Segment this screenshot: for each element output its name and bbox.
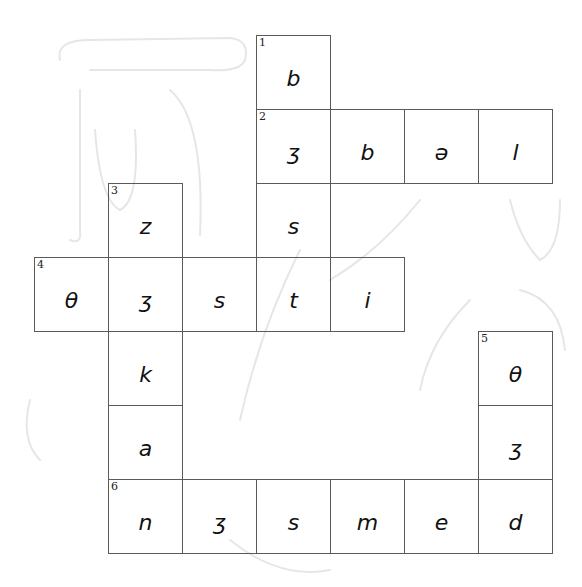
crossword-cell[interactable]: ʒ	[478, 405, 553, 480]
cell-letter: ʒ	[183, 510, 256, 536]
crossword-cell[interactable]: 5θ	[478, 331, 553, 406]
cell-letter: b	[331, 140, 404, 166]
crossword-cell[interactable]: 6n	[108, 479, 183, 554]
cell-letter: ʒ	[109, 288, 182, 314]
crossword-cell[interactable]: ʒ	[182, 479, 257, 554]
clue-number: 1	[259, 36, 266, 49]
cell-letter: k	[109, 362, 182, 388]
crossword-cell[interactable]: ə	[404, 109, 479, 184]
cell-letter: i	[331, 288, 404, 314]
clue-number: 5	[481, 332, 488, 345]
cell-letter: ə	[405, 140, 478, 166]
cell-letter: l	[479, 140, 552, 166]
crossword-cell[interactable]: 4θ	[34, 257, 109, 332]
cell-letter: a	[109, 436, 182, 462]
crossword-cell[interactable]: i	[330, 257, 405, 332]
cell-letter: ʒ	[257, 140, 330, 166]
cell-letter: s	[257, 214, 330, 240]
cell-letter: m	[331, 510, 404, 536]
clue-number: 2	[259, 110, 266, 123]
cell-letter: t	[257, 288, 330, 314]
cell-letter: s	[183, 288, 256, 314]
cell-letter: n	[109, 510, 182, 536]
crossword-cell[interactable]: d	[478, 479, 553, 554]
crossword-cell[interactable]: s	[256, 183, 331, 258]
cell-letter: ʒ	[479, 436, 552, 462]
crossword-cell[interactable]: 3z	[108, 183, 183, 258]
cell-letter: z	[109, 214, 182, 240]
crossword-cell[interactable]: l	[478, 109, 553, 184]
cell-letter: θ	[35, 288, 108, 314]
crossword-cell[interactable]: s	[256, 479, 331, 554]
cell-letter: d	[479, 510, 552, 536]
cell-letter: e	[405, 510, 478, 536]
clue-number: 6	[111, 480, 118, 493]
cell-letter: s	[257, 510, 330, 536]
crossword-cell[interactable]: b	[330, 109, 405, 184]
crossword-grid: 1b2ʒbəl3zs4θʒstik5θaʒ6nʒsmed	[0, 0, 582, 587]
crossword-cell[interactable]: m	[330, 479, 405, 554]
crossword-cell[interactable]: s	[182, 257, 257, 332]
crossword-cell[interactable]: k	[108, 331, 183, 406]
cell-letter: b	[257, 66, 330, 92]
crossword-cell[interactable]: a	[108, 405, 183, 480]
crossword-cell[interactable]: t	[256, 257, 331, 332]
crossword-cell[interactable]: 1b	[256, 35, 331, 110]
crossword-cell[interactable]: 2ʒ	[256, 109, 331, 184]
clue-number: 4	[37, 258, 44, 271]
crossword-cell[interactable]: ʒ	[108, 257, 183, 332]
crossword-cell[interactable]: e	[404, 479, 479, 554]
cell-letter: θ	[479, 362, 552, 388]
clue-number: 3	[111, 184, 118, 197]
